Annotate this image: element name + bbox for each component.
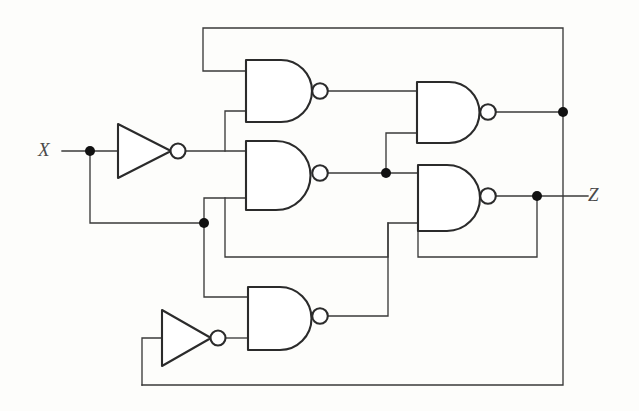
- nand-gate-5-bubble: [312, 308, 328, 324]
- nand-gate-2-bubble: [312, 165, 328, 181]
- nand-gate-4[interactable]: [418, 165, 480, 231]
- junction-x-lower: [199, 218, 209, 228]
- wire-x-to-nand5: [204, 223, 248, 297]
- nand-gate-1[interactable]: [246, 60, 312, 122]
- wire-inv2-input: [142, 338, 162, 385]
- junction-nand4-output: [532, 191, 542, 201]
- nand-gate-3-bubble: [480, 104, 496, 120]
- input-label-x: X: [38, 139, 50, 161]
- junction-nand3-output: [558, 107, 568, 117]
- junction-nand2-output: [381, 168, 391, 178]
- logic-circuit-schematic: [0, 0, 639, 411]
- inverter-2[interactable]: [162, 310, 211, 366]
- inverter-1-bubble: [171, 144, 186, 159]
- output-label-z: Z: [588, 184, 599, 206]
- inverter-2-bubble: [211, 331, 226, 346]
- circuit-diagram-canvas: X Z: [0, 0, 639, 411]
- wire-nand5-to-nand4: [328, 216, 418, 316]
- junction-x-split: [85, 146, 95, 156]
- nand-gate-1-bubble: [312, 83, 328, 99]
- nand-gate-5[interactable]: [248, 287, 312, 350]
- wire-nand2-to-nand3: [386, 133, 417, 173]
- nand-gate-4-bubble: [480, 188, 496, 204]
- nand-gate-3[interactable]: [417, 82, 479, 143]
- wire-inv1-to-nand1: [225, 111, 246, 151]
- wire-bottom-feedback: [142, 112, 563, 385]
- inverter-1[interactable]: [118, 124, 171, 178]
- nand-gate-2[interactable]: [246, 141, 311, 210]
